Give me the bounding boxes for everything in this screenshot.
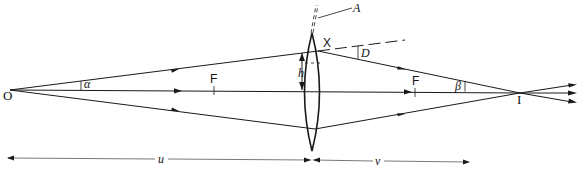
arrow-left-icon xyxy=(7,156,14,161)
object-label: O xyxy=(3,88,12,103)
point-x-label: X xyxy=(323,36,331,50)
lens-ray-diagram: O I F F X A D h α β u v xyxy=(0,0,577,172)
image-label: I xyxy=(517,92,521,107)
height-h-label: h xyxy=(298,66,304,80)
object-distance-u-label: u xyxy=(158,152,164,166)
arrow-left-icon xyxy=(313,158,320,163)
focal-left-label: F xyxy=(210,72,217,86)
arrow-icon xyxy=(174,88,182,93)
focal-right-label: F xyxy=(412,74,419,88)
apex-a-label: A xyxy=(352,1,361,15)
deviation-d-label: D xyxy=(360,46,370,60)
angle-alpha-label: α xyxy=(84,77,91,91)
arrow-icon xyxy=(568,91,577,96)
arrow-right-icon xyxy=(304,158,311,163)
arrow-icon xyxy=(171,107,180,111)
arrow-right-icon xyxy=(463,160,470,165)
refracted-rays xyxy=(315,51,577,129)
arrow-icon xyxy=(397,66,406,69)
arrow-icon xyxy=(404,89,412,94)
angle-markers xyxy=(81,46,465,92)
distance-dimensions xyxy=(7,156,470,165)
image-distance-v-label: v xyxy=(375,154,381,168)
converging-lens xyxy=(305,5,353,151)
arrow-icon xyxy=(568,83,577,87)
arrow-icon xyxy=(568,99,577,104)
angle-beta-label: β xyxy=(454,79,461,93)
